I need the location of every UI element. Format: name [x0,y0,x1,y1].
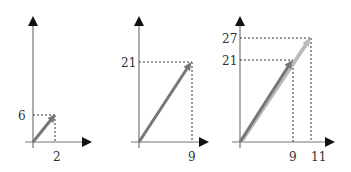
vector [139,64,190,142]
vector [33,116,54,142]
vector-diagram: 6 2 21 9 27 21 9 11 [0,0,351,172]
y-label: 6 [18,109,26,123]
panel-1: 6 2 [18,18,90,164]
x-label-9: 9 [289,150,297,164]
y-label-27: 27 [222,32,237,46]
panel-2: 21 9 [121,18,207,164]
y-label-21: 21 [222,54,237,68]
x-label: 2 [53,150,61,164]
x-label-11: 11 [311,150,326,164]
vector-dark [240,62,291,142]
x-label: 9 [188,150,196,164]
panel-3: 27 21 9 11 [222,18,333,164]
y-label: 21 [121,56,136,70]
